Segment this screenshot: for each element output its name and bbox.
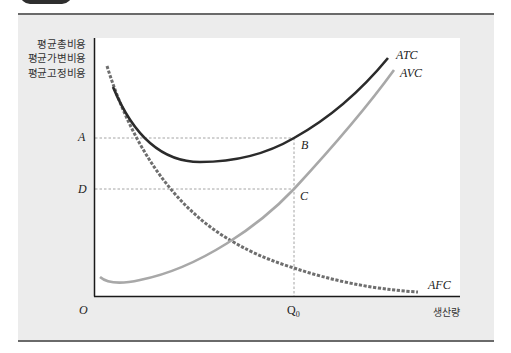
atc-label: ATC bbox=[396, 48, 418, 63]
y-axis-label-avc: 평균가변비용 bbox=[28, 50, 86, 65]
y-axis-label-atc: 평균총비용 bbox=[37, 36, 86, 51]
x-axis-label: 생산량 bbox=[433, 304, 460, 319]
y-tick-d: D bbox=[78, 182, 87, 197]
atc-curve bbox=[113, 58, 388, 162]
origin-label: O bbox=[79, 303, 88, 318]
point-c-label: C bbox=[300, 189, 308, 204]
y-tick-a: A bbox=[78, 130, 85, 145]
x-tick-q0: Q0 bbox=[287, 303, 300, 319]
afc-label: AFC bbox=[428, 278, 451, 293]
x-tick-q0-subscript: 0 bbox=[296, 310, 300, 319]
point-b-label: B bbox=[301, 138, 308, 153]
avc-label: AVC bbox=[400, 66, 422, 81]
y-axis-label-afc: 평균고정비용 bbox=[28, 65, 86, 80]
x-tick-q0-letter: Q bbox=[287, 303, 296, 317]
